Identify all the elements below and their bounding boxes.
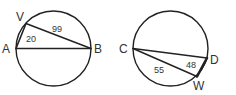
point-label-v: V	[16, 10, 24, 24]
point-label-a: A	[2, 42, 10, 56]
measure-label-vb: 99	[52, 24, 62, 34]
measure-label-cw: 55	[154, 65, 164, 75]
measure-labels: 20 99	[26, 24, 62, 44]
geometry-diagram: A V B 20 99 C D W 55 48	[0, 0, 236, 95]
circle-figure-1: A V B 20 99	[2, 10, 102, 86]
chord-dw	[197, 58, 207, 77]
measure-label-av: 20	[26, 34, 36, 44]
point-label-d: D	[210, 53, 219, 67]
measure-label-dw: 48	[186, 60, 196, 70]
circle-figure-2: C D W 55 48	[119, 11, 219, 93]
point-label-b: B	[94, 42, 102, 56]
point-label-w: W	[193, 79, 205, 93]
point-label-c: C	[119, 42, 128, 56]
